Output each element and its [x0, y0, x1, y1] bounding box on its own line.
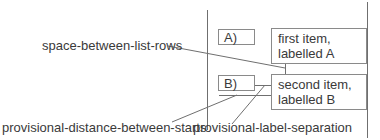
annotation-space-between-list-rows: space-between-list-rows: [42, 38, 182, 53]
item-b-line2: labelled B: [278, 92, 335, 108]
row-space-leader: [168, 46, 285, 68]
marker-b-text: B): [224, 76, 237, 92]
marker-a-text: A): [224, 30, 237, 46]
annotation-provisional-label-separation: provisional-label-separation: [193, 120, 352, 135]
item-a-line1: first item,: [278, 31, 331, 47]
item-b-line1: second item,: [278, 77, 352, 93]
diagram-lines: [0, 0, 380, 140]
annotation-provisional-distance-between-starts: provisional-distance-between-starts: [2, 120, 206, 135]
marker-box-a: A): [218, 29, 255, 45]
distance-leader: [172, 95, 237, 122]
item-box-b: second item, labelled B: [271, 74, 367, 110]
marker-box-b: B): [218, 75, 255, 91]
item-a-line2: labelled A: [278, 46, 334, 62]
item-box-a: first item, labelled A: [271, 28, 367, 64]
